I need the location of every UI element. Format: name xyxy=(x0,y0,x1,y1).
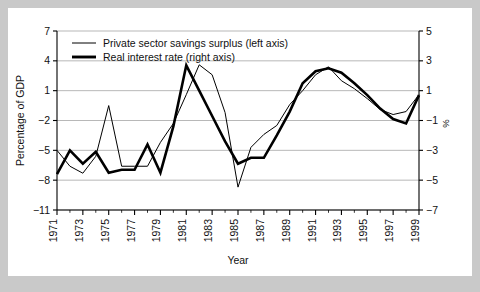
y-tick-label-left: −8 xyxy=(38,174,50,186)
chart-legend: Private sector savings surplus (left axi… xyxy=(72,37,288,63)
x-tick-label: 1987 xyxy=(254,219,266,243)
series-line-1 xyxy=(57,65,419,187)
y-tick-label-left: −11 xyxy=(33,204,50,216)
legend-label-1: Private sector savings surplus (left axi… xyxy=(103,37,288,49)
y-tick-label-left: 4 xyxy=(44,54,50,66)
x-tick-label: 1977 xyxy=(125,219,137,243)
y-tick-label-right: 1 xyxy=(426,84,432,96)
x-tick-label: 1999 xyxy=(409,219,421,243)
x-tick-label: 1995 xyxy=(357,219,369,243)
figure-card: 741−2−5−8−11 531−1−3−5−7 197119731975197… xyxy=(8,8,472,276)
y-tick-label-right: −3 xyxy=(426,144,438,156)
x-axis-ticks: 1971197319751977197919811983198519871989… xyxy=(47,210,421,242)
y-tick-label-right: −1 xyxy=(426,114,438,126)
x-tick-label: 1975 xyxy=(99,219,111,243)
x-tick-label: 1985 xyxy=(228,219,240,243)
x-tick-label: 1983 xyxy=(202,219,214,243)
chart-canvas: 741−2−5−8−11 531−1−3−5−7 197119731975197… xyxy=(8,8,472,276)
y-tick-label-left: −2 xyxy=(38,114,50,126)
y-tick-label-left: 7 xyxy=(44,25,50,37)
x-tick-label: 1981 xyxy=(176,219,188,243)
y-tick-label-right: 3 xyxy=(426,54,432,66)
figure-root: 741−2−5−8−11 531−1−3−5−7 197119731975197… xyxy=(0,0,480,292)
x-tick-label: 1979 xyxy=(150,219,162,243)
x-tick-label: 1993 xyxy=(331,219,343,243)
y-tick-label-left: 1 xyxy=(44,84,50,96)
y-tick-label-left: −5 xyxy=(38,144,50,156)
y-axis-right-ticks: 531−1−3−5−7 xyxy=(419,25,438,216)
x-tick-label: 1997 xyxy=(383,219,395,243)
y-tick-label-right: −5 xyxy=(426,174,438,186)
y-axis-right-label: % xyxy=(440,119,451,128)
y-tick-label-right: 5 xyxy=(426,25,432,37)
y-axis-left-ticks: 741−2−5−8−11 xyxy=(33,25,57,216)
x-tick-label: 1971 xyxy=(47,219,59,243)
y-tick-label-right: −7 xyxy=(426,204,438,216)
x-axis-label: Year xyxy=(227,254,249,266)
data-series xyxy=(57,65,419,187)
x-tick-label: 1973 xyxy=(73,219,85,243)
x-tick-label: 1989 xyxy=(280,219,292,243)
legend-label-2: Real interest rate (right axis) xyxy=(103,51,235,63)
x-tick-label: 1991 xyxy=(306,219,318,243)
y-axis-label: Percentage of GDP xyxy=(14,75,26,166)
